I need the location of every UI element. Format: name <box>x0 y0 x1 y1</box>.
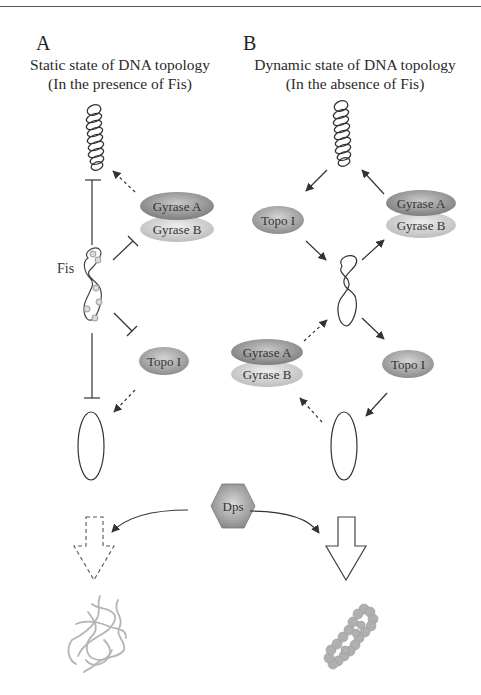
arrow-intermediate-to-topo1-b <box>362 318 384 339</box>
dps-hexagon: Dps <box>211 484 255 528</box>
gyrase-a-label: Gyrase A <box>153 199 202 214</box>
dashed-arrow-gyrase-to-supercoil-a <box>113 171 135 192</box>
gyrase-complex-a: Gyrase A Gyrase B <box>140 192 214 242</box>
gyrase-a-label-b-upper: Gyrase A <box>397 196 446 211</box>
loose-nucleoid-a <box>69 596 126 672</box>
inhibition-vertical-bottom-a <box>84 333 100 398</box>
topo1-label-b-upper: Topo I <box>261 213 295 228</box>
arrow-topo1-to-intermediate-b <box>306 241 326 260</box>
arrow-topo1-to-relaxed-b <box>366 393 387 416</box>
relaxed-dna-b <box>331 412 357 480</box>
gyrase-complex-b-lower: Gyrase A Gyrase B <box>231 339 303 387</box>
topo1-a: Topo I <box>139 347 189 375</box>
topo1-label-a: Topo I <box>147 354 181 369</box>
dashed-arrow-relaxed-to-gyrase-b <box>300 398 322 422</box>
topology-diagram: Gyrase A Gyrase B Fis Topo I <box>0 0 481 695</box>
topo1-b-lower: Topo I <box>382 350 434 378</box>
supercoiled-dna-b <box>332 99 352 168</box>
truncated-caption-row <box>10 686 480 695</box>
gyrase-b-label: Gyrase B <box>153 222 202 237</box>
fis-label: Fis <box>57 261 74 276</box>
dashed-open-arrow-a <box>74 517 114 580</box>
gyrase-b-label-b-lower: Gyrase B <box>243 367 292 382</box>
arrow-supercoil-to-topo1-b <box>306 170 327 191</box>
curved-arrow-dps-right <box>250 511 319 533</box>
arrow-intermediate-to-gyrase-b <box>362 240 384 260</box>
topo1-label-b-lower: Topo I <box>391 357 425 372</box>
solid-open-arrow-b <box>326 517 366 580</box>
compacted-nucleoid-b <box>324 604 378 669</box>
gyrase-complex-b-upper: Gyrase A Gyrase B <box>386 190 456 238</box>
dps-label: Dps <box>223 499 244 514</box>
dashed-arrow-topo1-to-relaxed-a <box>114 390 135 412</box>
inhibition-fis-to-topo1 <box>114 313 137 336</box>
relaxed-dna-a <box>78 412 104 480</box>
inhibition-vertical-top-a <box>85 180 101 245</box>
curved-arrow-dps-left <box>112 510 188 532</box>
intermediate-dna-b <box>338 256 357 326</box>
gyrase-a-label-b-lower: Gyrase A <box>243 345 292 360</box>
inhibition-fis-to-gyrase <box>113 236 138 260</box>
gyrase-b-label-b-upper: Gyrase B <box>397 218 446 233</box>
dashed-arrow-gyrase-to-intermediate-b <box>304 320 327 341</box>
arrow-gyrase-to-supercoil-b <box>362 170 384 194</box>
topo1-b-upper: Topo I <box>252 206 304 234</box>
fis-bound-dna <box>84 248 102 321</box>
supercoiled-dna-a <box>85 103 105 172</box>
